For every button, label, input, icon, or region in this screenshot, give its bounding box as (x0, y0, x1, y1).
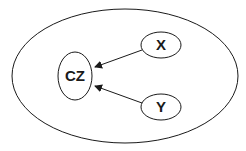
node-x: X (141, 32, 181, 58)
node-y: Y (141, 94, 181, 120)
diagram-canvas: CZ X Y (0, 0, 246, 151)
edge-x-to-cz (95, 50, 142, 67)
node-cz-label: CZ (65, 67, 85, 84)
node-y-label: Y (156, 98, 166, 115)
node-x-label: X (156, 36, 166, 53)
outer-ellipse (12, 9, 238, 143)
edge-y-to-cz (95, 86, 142, 103)
node-cz: CZ (58, 52, 92, 100)
